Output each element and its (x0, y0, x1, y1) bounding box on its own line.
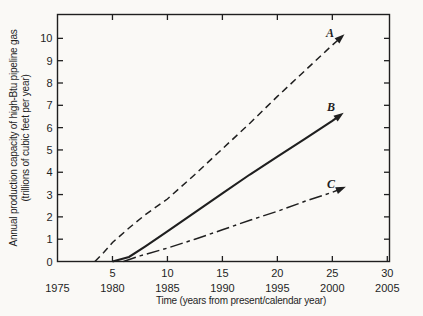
x-tick-label: 10 (161, 267, 173, 279)
x-tick-label: 15 (216, 267, 228, 279)
curve-B (113, 115, 341, 261)
y-tick-label: 6 (46, 122, 52, 134)
calendar-tick-label: 2000 (320, 282, 344, 294)
figure: 0123456789105101520253019751980198519901… (0, 0, 423, 316)
chart-generated-layer: 0123456789105101520253019751980198519901… (40, 15, 399, 295)
curve-c-label: C (327, 177, 336, 191)
y-tick-label: 3 (46, 189, 52, 201)
calendar-tick-label: 1975 (45, 282, 69, 294)
x-tick-label: 30 (381, 267, 393, 279)
y-axis-label-line-2: (trillions of cubic feet per year) (20, 74, 31, 201)
y-tick-label: 2 (46, 211, 52, 223)
production-capacity-chart: 0123456789105101520253019751980198519901… (0, 0, 423, 316)
calendar-tick-label: 1980 (100, 282, 124, 294)
curve-C-arrowhead (335, 187, 346, 194)
x-tick-label: 25 (326, 267, 338, 279)
curve-b-label: B (326, 100, 335, 114)
curve-A (95, 37, 341, 261)
y-tick-label: 0 (46, 256, 52, 268)
y-axis-label-line-1: Annual production capacity of high-Btu p… (8, 29, 19, 246)
x-tick-label: 5 (109, 267, 115, 279)
y-tick-label: 4 (46, 166, 52, 178)
calendar-tick-label: 1990 (210, 282, 234, 294)
y-tick-label: 9 (46, 55, 52, 67)
calendar-tick-label: 1995 (265, 282, 289, 294)
x-tick-label: 20 (271, 267, 283, 279)
plot-frame (58, 15, 390, 262)
calendar-tick-label: 1985 (155, 282, 179, 294)
curve-a-label: A (325, 26, 334, 40)
y-tick-label: 8 (46, 77, 52, 89)
y-tick-label: 5 (46, 144, 52, 156)
x-axis-label: Time (years from present/calendar year) (156, 295, 326, 306)
y-tick-label: 10 (40, 32, 52, 44)
curve-C (124, 189, 342, 262)
y-tick-label: 7 (46, 99, 52, 111)
y-tick-label: 1 (46, 233, 52, 245)
calendar-tick-label: 2005 (375, 282, 399, 294)
